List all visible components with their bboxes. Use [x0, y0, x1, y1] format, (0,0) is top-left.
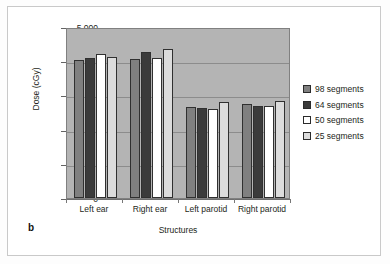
bar: [74, 60, 84, 199]
bar: [208, 109, 218, 198]
x-tick-label: Right ear: [133, 204, 168, 214]
plot-area: [66, 28, 290, 199]
bar: [152, 58, 162, 198]
x-axis-title: Structures: [66, 225, 290, 235]
x-tick-label: Left ear: [80, 204, 109, 214]
bar: [264, 106, 274, 198]
bar-group: [235, 29, 291, 198]
chart-legend: 98 segments64 segments50 segments25 segm…: [303, 84, 364, 141]
bar-group: [179, 29, 235, 198]
legend-label: 50 segments: [315, 115, 364, 125]
legend-swatch: [303, 101, 311, 109]
panel-label: b: [28, 222, 34, 233]
legend-item: 98 segments: [303, 84, 364, 94]
bar: [186, 107, 196, 198]
legend-item: 50 segments: [303, 115, 364, 125]
bar-group: [67, 29, 123, 198]
legend-item: 64 segments: [303, 100, 364, 110]
bar: [85, 58, 95, 198]
bar-group: [123, 29, 179, 198]
bar: [107, 57, 117, 198]
legend-swatch: [303, 132, 311, 140]
bar: [163, 49, 173, 198]
x-tick-label: Right parotid: [238, 204, 286, 214]
bar: [242, 104, 252, 198]
figure-panel: Dose (cGy) 01,0002,0003,0004,0005,000 Le…: [0, 0, 390, 264]
bar: [253, 106, 263, 198]
x-tick-mark: [234, 199, 235, 203]
legend-swatch: [303, 85, 311, 93]
x-tick-mark: [66, 199, 67, 203]
x-tick-label: Left parotid: [185, 204, 228, 214]
bar: [130, 59, 140, 198]
bar: [96, 54, 106, 198]
bar: [219, 102, 229, 198]
bar: [275, 101, 285, 198]
legend-swatch: [303, 116, 311, 124]
x-tick-mark: [290, 199, 291, 203]
legend-item: 25 segments: [303, 131, 364, 141]
x-tick-mark: [178, 199, 179, 203]
bar: [141, 52, 151, 198]
legend-label: 25 segments: [315, 131, 364, 141]
bar: [197, 108, 207, 198]
x-tick-mark: [122, 199, 123, 203]
legend-label: 64 segments: [315, 100, 364, 110]
legend-label: 98 segments: [315, 84, 364, 94]
